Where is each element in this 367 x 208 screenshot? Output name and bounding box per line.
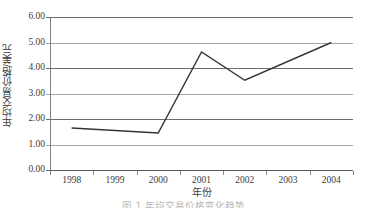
y-axis-tick-label: 0.00	[28, 165, 45, 175]
x-axis-tick-mark	[93, 171, 94, 175]
y-axis-tick-label: 3.00	[28, 89, 45, 99]
x-axis-title-text: 年份	[192, 187, 212, 198]
y-axis-title-text: 年均交易价格/美元	[3, 44, 13, 127]
y-axis-tick-mark	[46, 17, 50, 18]
figure-caption: 图 1 年均交易价格变化趋势	[0, 201, 367, 208]
x-axis-tick-mark	[137, 171, 138, 175]
x-axis-tick-mark	[50, 171, 51, 175]
y-axis-tick-label: 5.00	[28, 38, 45, 48]
y-axis-tick-mark	[46, 119, 50, 120]
x-axis-tick-mark	[310, 171, 311, 175]
y-axis-tick-label: 2.00	[28, 114, 45, 124]
y-axis-tick-mark	[46, 68, 50, 69]
y-axis-tick-label: 1.00	[28, 140, 45, 150]
x-axis-tick-label: 2004	[322, 176, 341, 186]
x-axis-tick-label: 2003	[279, 176, 298, 186]
x-axis-tick-mark	[180, 171, 181, 175]
line-chart: 年均交易价格/美元 0.001.002.003.004.005.006.00 年…	[0, 0, 367, 208]
data-series-line	[50, 17, 353, 170]
y-axis-tick-mark	[46, 94, 50, 95]
x-axis-tick-label: 1999	[105, 176, 124, 186]
x-axis-tick-label: 2000	[149, 176, 168, 186]
y-axis-tick-mark	[46, 145, 50, 146]
figure-caption-text: 图 1 年均交易价格变化趋势	[122, 201, 244, 208]
x-axis-tick-label: 2001	[192, 176, 211, 186]
x-axis-tick-mark	[223, 171, 224, 175]
x-axis-line	[50, 170, 353, 171]
y-axis-tick-label: 4.00	[28, 63, 45, 73]
series-polyline	[72, 43, 332, 134]
x-axis-tick-mark	[266, 171, 267, 175]
x-axis-tick-label: 1998	[62, 176, 81, 186]
x-axis-tick-label: 2002	[235, 176, 254, 186]
y-axis-tick-labels: 0.001.002.003.004.005.006.00	[16, 0, 48, 172]
x-axis-tick-mark	[353, 171, 354, 175]
x-axis-title: 年份	[50, 188, 353, 198]
y-axis-tick-label: 6.00	[28, 12, 45, 22]
y-axis-title: 年均交易价格/美元	[0, 0, 16, 172]
y-axis-tick-mark	[46, 43, 50, 44]
